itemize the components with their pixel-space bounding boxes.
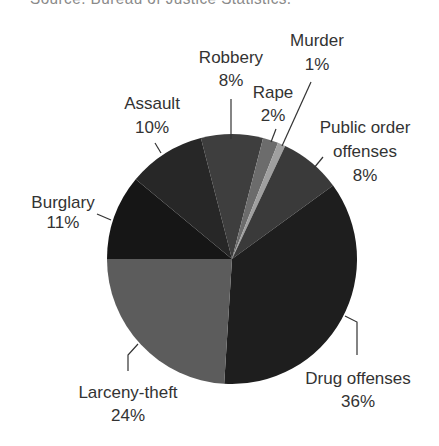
label-drug-pct: 36% — [341, 392, 375, 411]
label-robbery-name: Robbery — [199, 48, 264, 67]
label-rape-name: Rape — [253, 83, 294, 102]
label-assault-pct: 10% — [135, 118, 169, 137]
leader-assault — [155, 143, 161, 153]
label-public-order-pct: 8% — [353, 166, 378, 185]
label-public-order-line1: Public order — [320, 118, 411, 137]
label-drug-name: Drug offenses — [305, 369, 411, 388]
label-rape-pct: 2% — [261, 106, 286, 125]
leader-rape — [271, 129, 276, 142]
label-larceny-name: Larceny-theft — [78, 383, 177, 402]
label-murder-pct: 1% — [305, 55, 330, 74]
label-burglary-pct: 11% — [47, 213, 80, 232]
label-murder-name: Murder — [290, 31, 344, 50]
pie-chart: Robbery 8% Rape 2% Murder 1% Public orde… — [0, 0, 439, 446]
slice-larceny-theft — [107, 259, 232, 384]
label-public-order-line2: offenses — [333, 142, 397, 161]
label-assault-name: Assault — [124, 94, 180, 113]
leader-drug — [345, 316, 357, 355]
pie-slices — [107, 134, 357, 384]
label-burglary-name: Burglary — [31, 193, 95, 212]
label-robbery-pct: 8% — [219, 71, 244, 90]
leader-public-order — [314, 157, 323, 168]
leader-larceny — [128, 344, 138, 371]
label-larceny-pct: 24% — [111, 406, 145, 425]
leader-burglary — [97, 214, 111, 220]
